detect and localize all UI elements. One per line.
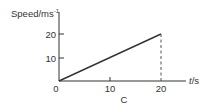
x-tick-label-10: 10 xyxy=(105,83,116,94)
origin-label: 0 xyxy=(53,83,58,94)
y-axis-label: Speed/ms-1 xyxy=(11,8,60,19)
graph-caption: C xyxy=(121,94,128,105)
x-tick-label-20: 20 xyxy=(156,83,167,94)
speed-line xyxy=(59,34,161,81)
y-tick-label-10: 10 xyxy=(45,53,56,64)
x-axis-label: t/s xyxy=(189,75,199,86)
speed-time-graph: Speed/ms-1 20 10 0 10 20 t/s C xyxy=(0,0,212,111)
y-tick-label-20: 20 xyxy=(45,29,56,40)
